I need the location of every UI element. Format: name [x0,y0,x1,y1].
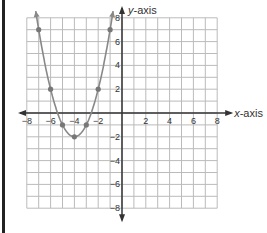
x-tick-label: 6 [191,116,196,126]
y-tick-label: −8 [110,203,120,213]
x-tick-label: −6 [45,116,55,126]
data-point [48,87,53,92]
y-axis-label: y-axis [127,4,157,16]
x-tick-label: −4 [69,116,79,126]
data-point [108,27,113,32]
data-point [60,122,65,127]
x-tick-label: 2 [143,116,148,126]
coordinate-plane: −8−6−4−224688642−2−4−6−8x-axisy-axis [0,0,267,233]
y-tick-label: −4 [110,156,120,166]
x-tick-label: 8 [215,116,220,126]
y-tick-label: 2 [115,84,120,94]
y-tick-label: 8 [115,13,120,23]
y-tick-label: 4 [115,60,120,70]
data-point [36,27,41,32]
data-point [96,87,101,92]
x-tick-label: −2 [93,116,103,126]
data-point [72,134,77,139]
data-point [84,122,89,127]
x-axis-right-arrow-icon [225,110,233,116]
y-tick-label: −2 [110,132,120,142]
x-tick-label: 4 [167,116,172,126]
x-tick-label: −8 [22,116,32,126]
y-axis-down-arrow-icon [119,214,125,222]
y-tick-label: 6 [115,37,120,47]
y-tick-label: −6 [110,179,120,189]
x-axis-label: x-axis [233,107,263,119]
